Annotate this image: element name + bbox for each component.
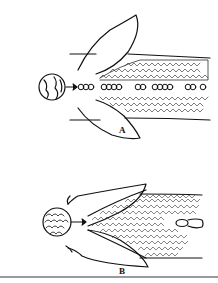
panel-label-b: B — [119, 266, 125, 276]
bottom-divider — [0, 276, 218, 278]
panel-b-drawing — [0, 140, 218, 274]
figure-panel-b: B — [0, 140, 218, 274]
panel-label-a: A — [119, 125, 126, 135]
panel-a-drawing — [0, 0, 218, 140]
figure-panel-a: A — [0, 0, 218, 140]
